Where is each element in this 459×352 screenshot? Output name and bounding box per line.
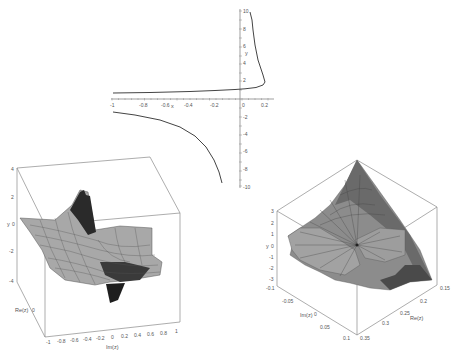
im-axis-label: Im(z) [300, 312, 313, 318]
re-tick-label: 0.3 [382, 320, 389, 326]
re-tick-label: 0.25 [400, 310, 410, 316]
y-tick-label: 2 [243, 77, 246, 83]
y-tick-label: 6 [243, 43, 246, 49]
svg-text:-0.2: -0.2 [96, 335, 105, 341]
y-tick-label: 8 [243, 26, 246, 32]
x-axis-label: x [171, 103, 174, 109]
svg-text:0: 0 [111, 334, 114, 340]
svg-text:-0.8: -0.8 [57, 338, 66, 344]
re-tick-label: 0.2 [420, 298, 427, 304]
z-tick-label: 0 [12, 221, 15, 227]
svg-text:-0.6: -0.6 [70, 337, 79, 343]
z-tick-label: 2 [11, 194, 14, 200]
y-tick-label: -6 [243, 148, 248, 154]
svg-text:1: 1 [175, 328, 178, 334]
svg-text:0.4: 0.4 [134, 332, 141, 338]
surface-right [288, 160, 432, 290]
x-tick-label: 0.2 [261, 102, 268, 108]
y-tick-label: 10 [243, 8, 249, 14]
x-tick-label: -0.4 [184, 102, 193, 108]
plot-2d: -1 -0.8 -0.6 -0.4 -0.2 0.2 x 0 10 8 6 4 … [110, 8, 274, 190]
y-axis-ticks [239, 11, 242, 186]
im-tick-label: 0.1 [343, 335, 350, 341]
surface-left [20, 190, 162, 303]
z-tick-label: 1 [271, 231, 274, 237]
y-tick-label: -8 [243, 166, 248, 172]
z-tick-label: -1 [269, 254, 274, 260]
svg-text:0.2: 0.2 [121, 333, 128, 339]
z-tick-label: 4 [11, 166, 14, 172]
z-tick-label: -4 [9, 278, 14, 284]
plot-3d-left: 4 2 y 0 -2 -4 Re(z) 0 -1 -0.8 -0.6 -0.4 … [7, 157, 180, 350]
y-tick-label: -2 [243, 114, 248, 120]
svg-text:0.6: 0.6 [147, 331, 154, 337]
z-axis-label: y [7, 221, 10, 227]
lower-branch-curve [113, 112, 222, 183]
y-axis-label: y [245, 50, 248, 56]
im-axis-ticks: -1 -0.8 -0.6 -0.4 -0.2 0 0.2 0.4 0.6 0.8… [46, 328, 178, 345]
re-tick-label: 0 [32, 307, 35, 313]
y-tick-label: -10 [243, 184, 250, 190]
box-top [17, 157, 180, 225]
svg-text:-1: -1 [46, 339, 51, 345]
svg-text:0.8: 0.8 [160, 330, 167, 336]
plot-3d-right: 3 2 1 y 0 -1 -2 -3 -0.1 -0.05 0 Im(z) 0.… [266, 160, 450, 341]
z-tick-label: 3 [271, 208, 274, 214]
im-tick-label: 0 [314, 311, 317, 317]
im-axis-label: Im(z) [106, 344, 119, 350]
y-tick-label: -4 [243, 131, 248, 137]
x-tick-label: -0.2 [210, 102, 219, 108]
z-tick-label: 2 [271, 220, 274, 226]
z-tick-label: -2 [269, 265, 274, 271]
x-tick-label: -1 [110, 102, 115, 108]
im-tick-label: -0.1 [266, 285, 275, 291]
svg-text:-0.4: -0.4 [83, 336, 92, 342]
y-tick-label: 4 [243, 60, 246, 66]
im-tick-label: -0.05 [282, 298, 294, 304]
x-tick-label: -0.8 [139, 102, 148, 108]
z-axis-label: y [266, 243, 269, 249]
im-tick-label: 0.05 [320, 324, 330, 330]
x-tick-label: -0.6 [161, 102, 170, 108]
origin-label: 0 [242, 102, 245, 108]
re-tick-label: 0.35 [360, 335, 370, 341]
z-tick-label: -2 [9, 248, 14, 254]
re-axis-label: Re(z) [15, 307, 29, 313]
re-axis-label: Re(z) [410, 315, 424, 321]
z-tick-label: -3 [269, 276, 274, 282]
z-tick-label: 0 [271, 243, 274, 249]
re-tick-label: 0.15 [440, 285, 450, 291]
figure-canvas: -1 -0.8 -0.6 -0.4 -0.2 0.2 x 0 10 8 6 4 … [0, 0, 459, 352]
